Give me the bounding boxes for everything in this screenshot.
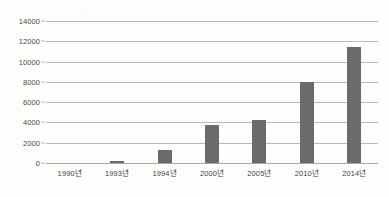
bar-slot bbox=[93, 21, 140, 163]
bar[interactable] bbox=[205, 125, 219, 163]
x-axis-category-label: 2014년 bbox=[342, 167, 366, 178]
bar[interactable] bbox=[110, 161, 124, 163]
x-axis-category-label: 1994년 bbox=[152, 167, 176, 178]
y-axis-tick-mark bbox=[41, 81, 45, 82]
y-axis-tick-label: 4000 bbox=[23, 118, 40, 127]
y-axis-tick-label: 8000 bbox=[23, 77, 40, 86]
bar-slot bbox=[46, 21, 93, 163]
x-axis-category-label: 1990년 bbox=[58, 167, 82, 178]
bar[interactable] bbox=[158, 150, 172, 163]
x-axis-category-label: 2005년 bbox=[247, 167, 271, 178]
y-axis-tick-label: 12000 bbox=[19, 37, 40, 46]
bar[interactable] bbox=[252, 120, 266, 163]
bar-chart-figure: 02000400060008000100001200014000 1990년19… bbox=[0, 0, 389, 197]
y-axis-tick-label: 14000 bbox=[19, 17, 40, 26]
y-axis-tick-label: 6000 bbox=[23, 98, 40, 107]
bar-slot bbox=[188, 21, 235, 163]
y-axis-tick-label: 2000 bbox=[23, 138, 40, 147]
y-axis-tick-mark bbox=[41, 142, 45, 143]
bar-slot bbox=[331, 21, 378, 163]
y-axis-tick-mark bbox=[41, 163, 45, 164]
bar-slot bbox=[141, 21, 188, 163]
x-axis-category-label: 1993년 bbox=[105, 167, 129, 178]
y-axis-tick-mark bbox=[41, 41, 45, 42]
x-axis-baseline: 0 bbox=[46, 163, 378, 164]
y-axis-tick-mark bbox=[41, 122, 45, 123]
y-axis-tick-label: 10000 bbox=[19, 57, 40, 66]
x-axis-category-label: 2010년 bbox=[295, 167, 319, 178]
bar[interactable] bbox=[300, 82, 314, 163]
y-axis-tick-mark bbox=[41, 21, 45, 22]
y-axis-tick-mark bbox=[41, 61, 45, 62]
bar[interactable] bbox=[347, 47, 361, 163]
bars-layer bbox=[46, 21, 378, 163]
y-axis-tick-label: 0 bbox=[36, 159, 40, 168]
bar-slot bbox=[236, 21, 283, 163]
y-axis-tick-mark bbox=[41, 102, 45, 103]
bar-slot bbox=[283, 21, 330, 163]
x-axis-category-label: 2000년 bbox=[200, 167, 224, 178]
